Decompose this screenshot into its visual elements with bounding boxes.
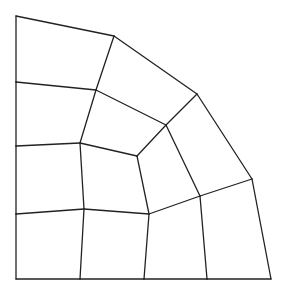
mesh-edge-D2-E0 [252,179,271,279]
mesh-edges [16,16,271,279]
mesh-edge-A1-B1 [16,209,84,214]
mesh-edge-B2-B3 [80,90,96,143]
mesh-edge-C2-C3 [137,125,166,156]
mesh-edge-A2-B2 [16,143,80,146]
mesh-edge-B0-B1 [80,209,84,279]
mesh-edge-B3-B4 [96,36,114,90]
mesh-edge-B2-C2 [80,143,137,156]
mesh-edge-C0-C1 [144,214,149,279]
mesh-edge-B3-C3 [96,90,166,125]
mesh-edge-B4-C4 [114,36,197,94]
mesh-edge-D1-D2 [200,179,252,196]
mesh-edge-C1-D1 [149,196,200,214]
mesh-edge-C3-D1 [166,125,200,196]
mesh-edge-C4-D2 [197,94,252,179]
mesh-edge-C3-C4 [166,94,197,125]
mesh-edge-A4-B4 [16,16,114,36]
mesh-edge-B1-C1 [84,209,149,214]
quad-mesh-diagram [0,0,284,293]
mesh-edge-A3-B3 [16,82,96,90]
mesh-edge-B1-B2 [80,143,84,209]
mesh-edge-C1-C2 [137,156,149,214]
mesh-edge-D0-D1 [200,196,207,279]
